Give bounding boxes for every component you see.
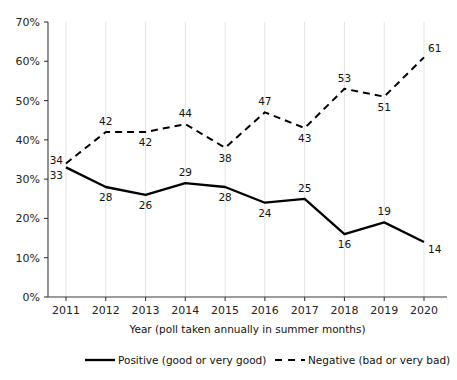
data-point-label: 28 — [99, 191, 112, 203]
data-point-label: 24 — [258, 207, 272, 219]
data-point-label: 33 — [50, 169, 63, 181]
x-tick-label: 2012 — [92, 304, 120, 317]
data-point-label: 53 — [338, 72, 351, 84]
legend-label: Positive (good or very good) — [118, 354, 266, 366]
chart-legend: Positive (good or very good)Negative (ba… — [85, 354, 450, 366]
data-point-label: 26 — [139, 199, 153, 211]
x-tick-label: 2015 — [211, 304, 239, 317]
line-chart: 0%10%20%30%40%50%60%70% 2011201220132014… — [0, 0, 457, 380]
x-tick-label: 2014 — [171, 304, 199, 317]
data-point-label: 29 — [179, 166, 192, 178]
x-tick-label: 2020 — [410, 304, 438, 317]
x-axis: 2011201220132014201520162017201820192020 — [48, 297, 447, 317]
gridlines-layer — [66, 22, 424, 297]
x-tick-label: 2013 — [132, 304, 160, 317]
data-point-label: 25 — [298, 182, 311, 194]
x-tick-label: 2019 — [370, 304, 398, 317]
data-point-label: 61 — [428, 42, 441, 54]
data-point-label: 14 — [428, 243, 442, 255]
y-tick-label: 0% — [23, 291, 40, 304]
data-point-label: 16 — [338, 238, 352, 250]
data-point-label: 51 — [378, 101, 391, 113]
x-axis-title: Year (poll taken annually in summer mont… — [128, 323, 365, 335]
series-line-positive — [66, 167, 424, 242]
x-tick-label: 2011 — [52, 304, 80, 317]
y-tick-label: 50% — [16, 95, 40, 108]
data-point-label: 44 — [179, 107, 193, 119]
data-point-label: 42 — [139, 136, 152, 148]
data-point-label: 28 — [218, 191, 231, 203]
data-point-label: 42 — [99, 115, 112, 127]
series-line-negative — [66, 57, 424, 163]
x-tick-label: 2017 — [291, 304, 319, 317]
data-point-label: 19 — [378, 205, 391, 217]
y-tick-label: 60% — [16, 55, 40, 68]
chart-container: 0%10%20%30%40%50%60%70% 2011201220132014… — [0, 0, 457, 380]
x-tick-label: 2018 — [330, 304, 358, 317]
y-tick-label: 10% — [16, 252, 40, 265]
y-tick-label: 70% — [16, 16, 40, 29]
data-point-label: 43 — [298, 132, 311, 144]
data-point-label: 34 — [50, 154, 64, 166]
x-axis-title-text: Year (poll taken annually in summer mont… — [128, 323, 365, 335]
legend-label: Negative (bad or very bad) — [308, 354, 450, 366]
data-point-label: 38 — [218, 152, 231, 164]
y-tick-label: 30% — [16, 173, 40, 186]
x-tick-label: 2016 — [251, 304, 279, 317]
legend-item-negative[interactable]: Negative (bad or very bad) — [275, 354, 450, 366]
legend-item-positive[interactable]: Positive (good or very good) — [85, 354, 266, 366]
series-layer — [66, 57, 424, 242]
y-tick-label: 40% — [16, 134, 40, 147]
y-tick-label: 20% — [16, 212, 40, 225]
data-point-label: 47 — [258, 95, 271, 107]
y-axis: 0%10%20%30%40%50%60%70% — [16, 16, 48, 304]
